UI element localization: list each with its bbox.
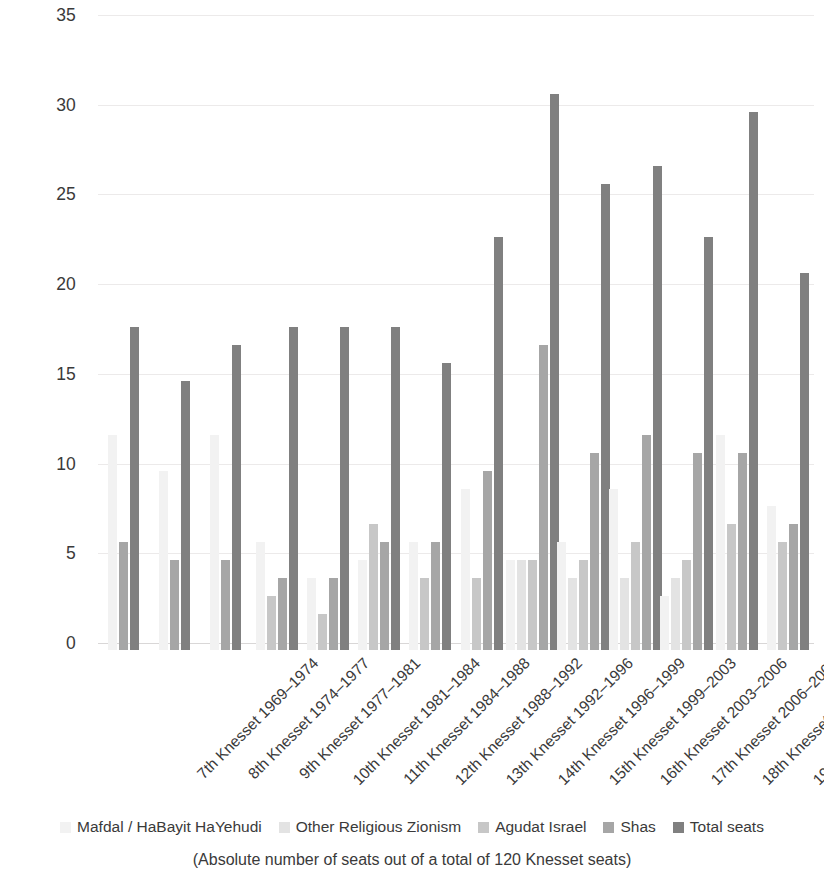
bar-group [763, 15, 814, 650]
bar-group [661, 15, 712, 650]
bar-group [303, 15, 354, 650]
bar-group [712, 15, 763, 650]
bar-group [251, 15, 302, 650]
bar-shas [693, 453, 702, 650]
bar-shas [170, 560, 179, 650]
bar-total-seats [232, 345, 241, 650]
bar-agudat-israel [369, 524, 378, 650]
bar-agudat-israel [267, 596, 276, 650]
bar-shas [483, 471, 492, 650]
legend-label: Agudat Israel [495, 818, 586, 836]
legend-swatch-icon [279, 822, 290, 833]
y-tick-label: 25 [56, 184, 76, 205]
bar-shas [789, 524, 798, 650]
legend-swatch-icon [603, 822, 614, 833]
y-tick-label: 0 [66, 633, 76, 654]
legend-label: Other Religious Zionism [296, 818, 461, 836]
chart-caption: (Absolute number of seats out of a total… [0, 851, 824, 869]
bar-total-seats [340, 327, 349, 650]
bar-group [558, 15, 609, 650]
bar-group [98, 15, 149, 650]
bar-total-seats [391, 327, 400, 650]
bar-agudat-israel [318, 614, 327, 650]
legend-item: Mafdal / HaBayit HaYehudi [60, 818, 262, 836]
legend-label: Total seats [690, 818, 764, 836]
legend-item: Other Religious Zionism [279, 818, 461, 836]
bar-total-seats [289, 327, 298, 650]
bar-mafdal [609, 489, 618, 650]
bar-mafdal [461, 489, 470, 650]
bar-total-seats [130, 327, 139, 650]
bar-group [609, 15, 660, 650]
bar-other-religious-zionism [671, 578, 680, 650]
bar-group [200, 15, 251, 650]
y-tick-label: 10 [56, 453, 76, 474]
bar-shas [590, 453, 599, 650]
bar-agudat-israel [528, 560, 537, 650]
bar-mafdal [767, 506, 776, 650]
bar-total-seats [181, 381, 190, 650]
bar-shas [278, 578, 287, 650]
bar-agudat-israel [579, 560, 588, 650]
bar-mafdal [256, 542, 265, 650]
y-tick-label: 35 [56, 5, 76, 26]
bar-shas [380, 542, 389, 650]
bar-mafdal [108, 435, 117, 650]
bar-mafdal [358, 560, 367, 650]
knesset-religious-parties-bar-chart: 05101520253035 7th Knesset 1969–19748th … [0, 0, 824, 880]
bar-agudat-israel [631, 542, 640, 650]
y-tick-label: 5 [66, 543, 76, 564]
bar-agudat-israel [682, 560, 691, 650]
plot-area [98, 8, 814, 650]
x-axis-labels: 7th Knesset 1969–19748th Knesset 1974–19… [98, 650, 814, 810]
bar-mafdal [307, 578, 316, 650]
bar-shas [119, 542, 128, 650]
legend-swatch-icon [60, 822, 71, 833]
bar-mafdal [716, 435, 725, 650]
bar-shas [539, 345, 548, 650]
bar-agudat-israel [778, 542, 787, 650]
bar-other-religious-zionism [517, 560, 526, 650]
bar-mafdal [557, 542, 566, 650]
bar-shas [642, 435, 651, 650]
bar-mafdal [660, 596, 669, 650]
bar-agudat-israel [472, 578, 481, 650]
y-tick-label: 20 [56, 274, 76, 295]
bar-shas [221, 560, 230, 650]
legend-item: Shas [603, 818, 655, 836]
bar-mafdal [210, 435, 219, 650]
bar-total-seats [800, 273, 809, 650]
bar-group [149, 15, 200, 650]
bar-group [354, 15, 405, 650]
bar-group [456, 15, 507, 650]
chart-legend: Mafdal / HaBayit HaYehudiOther Religious… [0, 818, 824, 836]
bar-total-seats [442, 363, 451, 650]
bar-other-religious-zionism [568, 578, 577, 650]
y-tick-label: 30 [56, 94, 76, 115]
legend-swatch-icon [478, 822, 489, 833]
bar-shas [431, 542, 440, 650]
bar-shas [738, 453, 747, 650]
bar-mafdal [506, 560, 515, 650]
y-axis: 05101520253035 [0, 0, 98, 658]
bar-mafdal [159, 471, 168, 650]
bar-agudat-israel [727, 524, 736, 650]
legend-swatch-icon [673, 822, 684, 833]
legend-label: Shas [620, 818, 655, 836]
bar-agudat-israel [420, 578, 429, 650]
y-tick-label: 15 [56, 363, 76, 384]
legend-item: Agudat Israel [478, 818, 586, 836]
legend-item: Total seats [673, 818, 764, 836]
bar-group [507, 15, 558, 650]
bar-group [405, 15, 456, 650]
bar-total-seats [749, 112, 758, 650]
bar-shas [329, 578, 338, 650]
bar-mafdal [409, 542, 418, 650]
bar-other-religious-zionism [620, 578, 629, 650]
bar-total-seats [494, 237, 503, 650]
legend-label: Mafdal / HaBayit HaYehudi [77, 818, 262, 836]
